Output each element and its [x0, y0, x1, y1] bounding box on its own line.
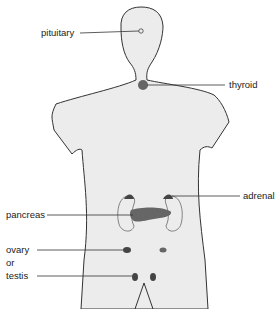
endocrine-diagram: pituitary thyroid adrenal pancreas ovary…	[0, 0, 280, 309]
body-outline-figure	[0, 0, 280, 309]
right-ovary	[160, 248, 167, 253]
label-or: or	[6, 257, 14, 268]
right-testis	[150, 273, 156, 281]
label-thyroid: thyroid	[229, 79, 258, 90]
label-ovary: ovary	[6, 244, 29, 255]
left-ovary	[123, 247, 131, 253]
label-testis: testis	[6, 270, 28, 281]
label-pituitary: pituitary	[41, 27, 74, 38]
label-adrenal: adrenal	[243, 190, 275, 201]
label-pancreas: pancreas	[6, 209, 45, 220]
body-silhouette	[52, 7, 229, 309]
thyroid-gland	[138, 80, 148, 90]
left-testis	[132, 273, 138, 281]
